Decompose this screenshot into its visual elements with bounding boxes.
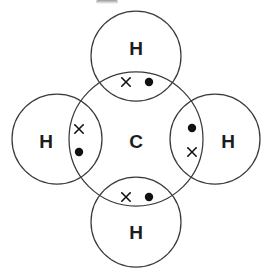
hydrogen-electron-dot-icon <box>145 78 153 86</box>
hydrogen-electron-dot-icon <box>145 193 153 201</box>
hydrogen-electron-dot-icon <box>75 148 83 156</box>
carbon-label: C <box>129 131 143 152</box>
hydrogen-bottom-label: H <box>129 222 143 243</box>
hydrogen-electron-dot-icon <box>188 124 196 132</box>
hydrogen-right-label: H <box>221 131 235 152</box>
methane-molecule-svg: C H H H H <box>0 0 272 276</box>
hydrogen-top-label: H <box>129 38 143 59</box>
dot-and-cross-diagram: C H H H H <box>0 0 272 276</box>
hydrogen-left-label: H <box>39 131 53 152</box>
